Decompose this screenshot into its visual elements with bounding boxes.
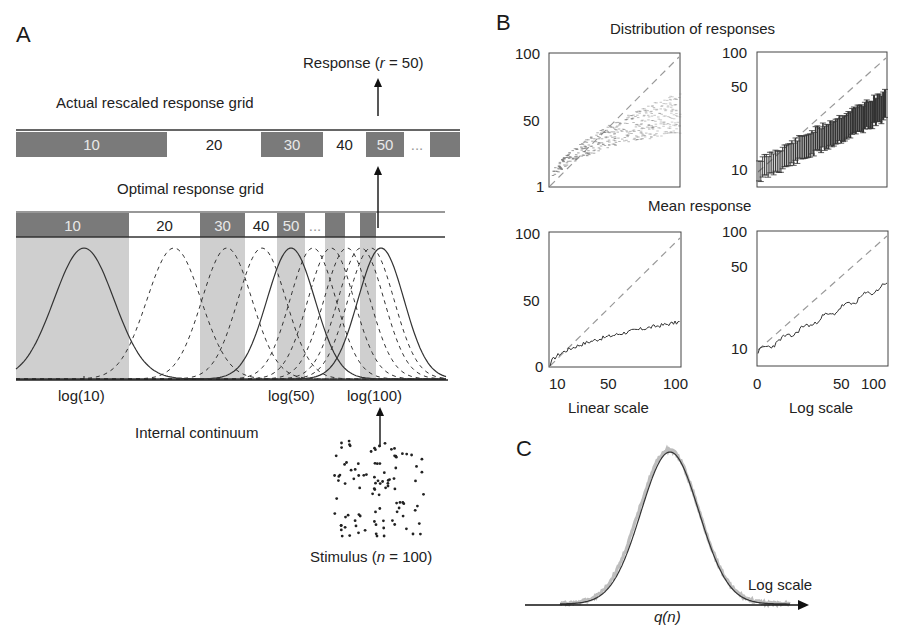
panel-c-plot [0, 0, 912, 638]
